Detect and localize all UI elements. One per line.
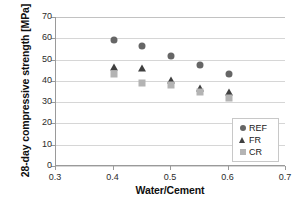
y-axis-tick-label: 70 — [22, 12, 52, 21]
legend-square-icon — [237, 147, 248, 158]
data-point-cr — [196, 89, 203, 96]
legend-item-label: REF — [249, 123, 267, 134]
x-axis-tick-label: 0.5 — [155, 172, 185, 182]
gridline — [56, 38, 285, 39]
data-point-cr — [139, 79, 146, 86]
legend-item-cr[interactable]: CR — [237, 146, 278, 158]
gridline — [56, 102, 285, 103]
data-point-cr — [225, 95, 232, 102]
x-axis-title: Water/Cement — [55, 184, 285, 196]
y-axis-tick-label: 20 — [22, 118, 52, 127]
gridline — [56, 17, 285, 18]
data-point-ref — [139, 42, 146, 49]
x-axis-tick-mark — [285, 166, 286, 170]
x-axis-tick-label: 0.4 — [98, 172, 128, 182]
data-point-cr — [110, 71, 117, 78]
x-axis-tick-label: 0.7 — [270, 172, 300, 182]
legend-item-fr[interactable]: FR — [237, 134, 278, 146]
legend-item-label: CR — [249, 147, 262, 158]
x-axis-tick-mark — [170, 166, 171, 170]
y-axis-tick-label: 50 — [22, 55, 52, 64]
legend-item-label: FR — [249, 135, 261, 146]
data-point-ref — [225, 70, 232, 77]
gridline — [56, 60, 285, 61]
chart-legend: REFFRCR — [232, 118, 279, 162]
x-axis-tick-mark — [55, 166, 56, 170]
y-axis-tick-label: 0 — [22, 161, 52, 170]
legend-triangle-icon — [237, 135, 248, 146]
y-axis-tick-label: 40 — [22, 76, 52, 85]
y-axis-tick-label: 30 — [22, 97, 52, 106]
y-axis-tick-label: 60 — [22, 33, 52, 42]
x-axis-tick-mark — [113, 166, 114, 170]
legend-circle-icon — [237, 123, 248, 134]
data-point-fr — [110, 64, 118, 71]
legend-item-ref[interactable]: REF — [237, 122, 278, 134]
x-axis-tick-label: 0.6 — [213, 172, 243, 182]
scatter-chart: 28-day compressive strength [MPa] 010203… — [0, 0, 305, 205]
data-point-ref — [168, 52, 175, 59]
y-axis-tick-label: 10 — [22, 140, 52, 149]
x-axis-tick-mark — [228, 166, 229, 170]
data-point-cr — [168, 82, 175, 89]
data-point-ref — [196, 62, 203, 69]
data-point-fr — [138, 64, 146, 71]
y-axis-title: 28-day compressive strength [MPa] — [16, 3, 34, 178]
data-point-ref — [110, 36, 117, 43]
x-axis-tick-label: 0.3 — [40, 172, 70, 182]
